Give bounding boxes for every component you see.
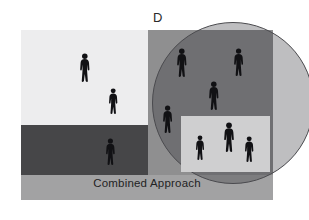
- person-icon: [79, 53, 91, 82]
- person-icon: [223, 122, 235, 152]
- person-icon: [108, 88, 118, 114]
- diagram-canvas: D Combined Approach: [0, 0, 309, 220]
- person-icon: [162, 105, 173, 133]
- person-figure: [79, 53, 91, 82]
- panel-letter-label: D: [153, 11, 163, 24]
- person-figure: [195, 135, 205, 160]
- person-figure: [233, 48, 244, 76]
- person-icon: [244, 136, 254, 162]
- person-icon: [195, 135, 205, 160]
- person-figure: [105, 138, 116, 165]
- middle-dark-band: [21, 125, 148, 175]
- diagram-caption: Combined Approach: [21, 177, 273, 189]
- person-figure: [162, 105, 173, 133]
- person-figure: [108, 88, 118, 114]
- person-icon: [208, 81, 220, 110]
- person-figure: [244, 136, 254, 162]
- person-figure: [223, 122, 235, 152]
- diagram-body: Combined Approach: [21, 30, 273, 200]
- person-icon: [105, 138, 116, 165]
- person-icon: [176, 48, 188, 77]
- person-figure: [208, 81, 220, 110]
- person-icon: [233, 48, 244, 76]
- person-figure: [176, 48, 188, 77]
